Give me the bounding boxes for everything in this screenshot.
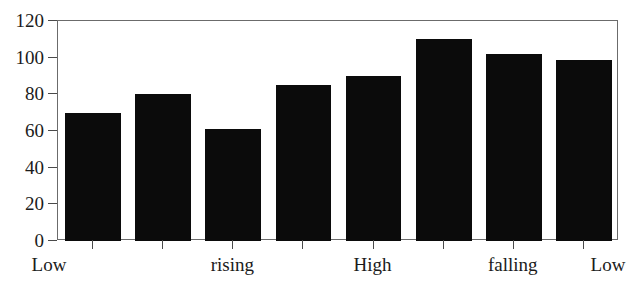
x-axis-tick-label: falling: [488, 255, 538, 274]
y-axis-tick-label: 60: [0, 121, 44, 140]
bar: [276, 85, 332, 241]
y-axis-tick-label: 0: [0, 231, 44, 250]
x-axis-tick-mark: [583, 240, 584, 249]
plot-area-frame: [57, 20, 618, 240]
y-axis-tick-mark: [48, 203, 57, 204]
y-axis-tick-mark: [48, 20, 57, 21]
x-axis-tick-label: High: [354, 255, 392, 274]
y-axis-tick-label: 100: [0, 47, 44, 66]
bar: [486, 54, 542, 241]
x-axis-tick-label: Low: [32, 255, 67, 274]
y-axis-tick-label: 120: [0, 11, 44, 30]
bar: [346, 76, 402, 241]
x-axis-tick-label: Low: [591, 255, 626, 274]
x-axis-tick-mark: [443, 240, 444, 249]
x-axis-tick-mark: [232, 240, 233, 249]
y-axis-tick-mark: [48, 167, 57, 168]
bar: [416, 39, 472, 241]
y-axis-tick-mark: [48, 93, 57, 94]
y-axis-tick-label: 80: [0, 84, 44, 103]
bar: [65, 113, 121, 241]
y-axis-tick-mark: [48, 57, 57, 58]
bar: [556, 60, 612, 242]
y-axis-tick-label: 20: [0, 194, 44, 213]
bar: [205, 129, 261, 241]
x-axis-tick-mark: [92, 240, 93, 249]
x-axis-tick-mark: [513, 240, 514, 249]
x-axis-tick-mark: [373, 240, 374, 249]
bar: [135, 94, 191, 241]
y-axis-tick-mark: [48, 240, 57, 241]
x-axis-tick-label: rising: [211, 255, 254, 274]
x-axis-tick-mark: [162, 240, 163, 249]
y-axis-tick-label: 40: [0, 157, 44, 176]
x-axis-tick-mark: [302, 240, 303, 249]
bar-chart-figure: 020406080100120 LowrisingHighfallingLow: [0, 0, 644, 283]
y-axis-tick-mark: [48, 130, 57, 131]
